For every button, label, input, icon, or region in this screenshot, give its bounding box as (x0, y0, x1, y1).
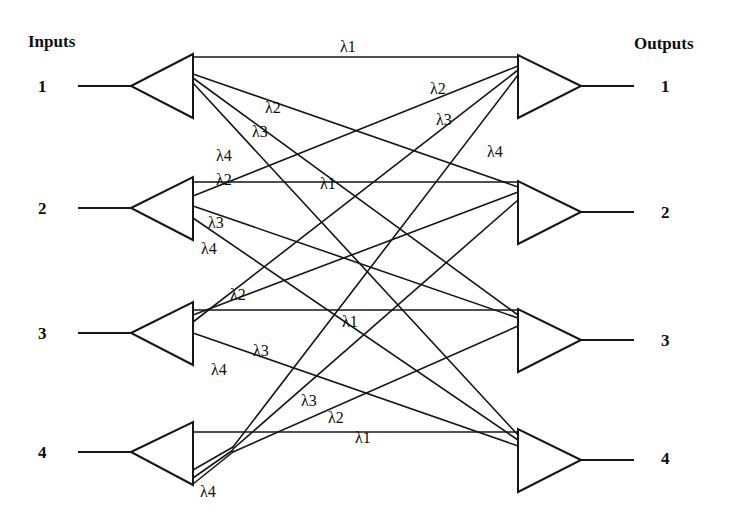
lambda-label-in2-3: λ3 (208, 214, 224, 231)
output-port-label-2: 2 (661, 203, 670, 222)
lambda-label-in3-2: λ2 (230, 286, 246, 303)
link-in4-out1-lambda4 (233, 75, 518, 447)
lambda-label-in1-3: λ3 (252, 123, 268, 140)
output-mux-1 (518, 55, 581, 118)
wavelength-router-figure: Inputs Outputs 1 2 3 4 1 2 3 4 (0, 0, 733, 524)
link-in4-fan-leg-b (193, 450, 233, 478)
lambda-label-in1-2: λ2 (265, 99, 281, 116)
input-port-label-4: 4 (38, 443, 47, 462)
lambda-label-in3-3: λ3 (253, 342, 269, 359)
input-demux-2 (131, 177, 193, 240)
input-demux-4 (131, 422, 193, 485)
lambda-label-out1-3: λ3 (436, 111, 452, 128)
link-in2-out1-lambda2 (193, 66, 518, 196)
input-port-label-1: 1 (38, 77, 47, 96)
lambda-label-in1-4: λ4 (216, 147, 232, 164)
router-diagram-canvas: Inputs Outputs 1 2 3 4 1 2 3 4 (0, 0, 733, 524)
lambda-label-in4-2: λ2 (328, 409, 344, 426)
lambda-label-in4-4: λ4 (200, 483, 216, 500)
lambda-label-out1-4: λ4 (487, 143, 503, 160)
input-demux-3 (131, 302, 193, 365)
lambda-label-in3-1: λ1 (342, 313, 358, 330)
outputs-header: Outputs (634, 34, 694, 53)
output-mux-3 (518, 309, 581, 372)
lambda-label-out1-2: λ2 (430, 80, 446, 97)
lambda-label-in3-4: λ4 (211, 361, 227, 378)
output-port-label-4: 4 (661, 449, 670, 468)
input-demux-1 (131, 54, 193, 118)
link-in4-fan-leg-a (193, 447, 233, 470)
lambda-label-in2-1: λ1 (320, 175, 336, 192)
link-in1-out4-lambda4 (193, 83, 518, 435)
inputs-header: Inputs (28, 32, 76, 51)
output-port-label-1: 1 (661, 77, 670, 96)
link-in3-out1-lambda3 (193, 70, 518, 322)
lambda-label-in2-4: λ4 (201, 240, 217, 257)
input-port-label-3: 3 (38, 324, 47, 343)
lambda-label-in4-3: λ3 (301, 392, 317, 409)
output-port-label-3: 3 (661, 331, 670, 350)
lambda-label-in4-1: λ1 (355, 429, 371, 446)
input-port-label-2: 2 (38, 199, 47, 218)
output-mux-2 (518, 181, 581, 244)
lambda-label-in2-2: λ2 (216, 171, 232, 188)
output-mux-4 (518, 429, 581, 492)
link-in4-fan-leg-c (193, 452, 233, 484)
lambda-label-in1-1: λ1 (340, 38, 356, 55)
